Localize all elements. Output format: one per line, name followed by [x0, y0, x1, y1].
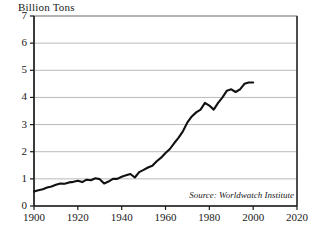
chart-plot-area	[0, 0, 314, 244]
chart-figure: Billion Tons 01234567 190019201940196019…	[0, 0, 314, 244]
x-tick-label: 1920	[58, 211, 98, 223]
x-tick-label: 1940	[102, 211, 142, 223]
x-tick-label: 2020	[277, 211, 314, 223]
y-tick-label: 5	[5, 63, 27, 75]
x-tick-label: 1960	[146, 211, 186, 223]
y-tick-label: 7	[5, 9, 27, 21]
data-series-group	[34, 83, 253, 192]
plot-frame	[34, 16, 297, 206]
data-line	[34, 83, 253, 192]
x-tick-label: 1900	[14, 211, 54, 223]
y-tick-label: 0	[5, 199, 27, 211]
source-annotation: Source: Worldwatch Institute	[189, 190, 294, 200]
y-tick-label: 2	[5, 145, 27, 157]
x-tick-label: 2000	[233, 211, 273, 223]
y-tick-label: 6	[5, 36, 27, 48]
y-tick-label: 3	[5, 118, 27, 130]
y-tick-label: 1	[5, 172, 27, 184]
axis-frame	[34, 16, 297, 206]
y-tick-label: 4	[5, 90, 27, 102]
axis-tickmarks	[30, 16, 297, 210]
x-tick-label: 1980	[189, 211, 229, 223]
